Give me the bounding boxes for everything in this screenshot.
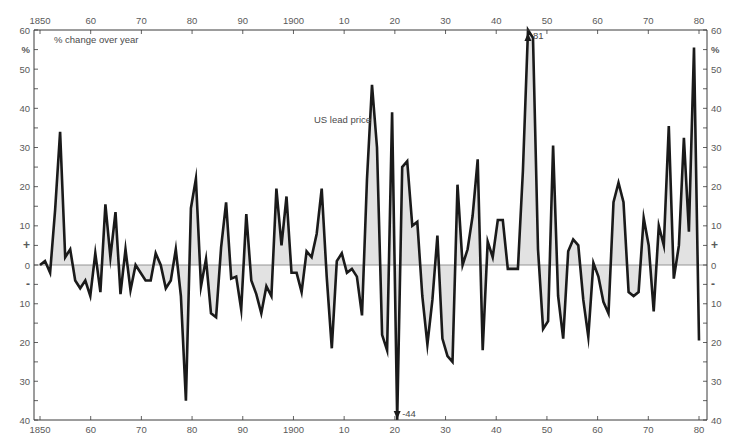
x-tick-label-top: 60	[592, 15, 603, 26]
x-tick-label-top: 50	[542, 15, 553, 26]
x-tick-label-bottom: 1850	[29, 424, 50, 435]
y-tick-label-right: 0	[711, 260, 716, 271]
y-tick-label-right: 30	[711, 376, 722, 387]
x-tick-label-bottom: 70	[643, 424, 654, 435]
x-tick-label-bottom: 90	[237, 424, 248, 435]
y-tick-label-left: 40	[19, 415, 30, 426]
y-tick-label-left: -	[26, 277, 30, 291]
x-tick-label-top: 1900	[283, 15, 304, 26]
y-tick-label-left: 30	[19, 376, 30, 387]
y-tick-label-left: 40	[19, 103, 30, 114]
x-tick-label-top: 70	[136, 15, 147, 26]
y-tick-label-right: 10	[711, 298, 722, 309]
y-tick-label-left: +	[23, 238, 30, 252]
series-label: US lead price	[314, 114, 371, 125]
trough-annotation: -44	[402, 408, 416, 419]
x-tick-label-top: 80	[187, 15, 198, 26]
x-tick-label-bottom: 40	[491, 424, 502, 435]
y-tick-label-right: 50	[711, 64, 722, 75]
x-tick-label-bottom: 30	[440, 424, 451, 435]
y-tick-label-left: 60	[19, 25, 30, 36]
peak-annotation: 81	[533, 30, 544, 41]
x-tick-label-top: 40	[491, 15, 502, 26]
y-tick-label-right: 40	[711, 415, 722, 426]
y-tick-label-right: -	[711, 277, 715, 291]
x-tick-label-bottom: 1900	[283, 424, 304, 435]
x-tick-label-bottom: 60	[85, 424, 96, 435]
x-tick-label-top: 60	[85, 15, 96, 26]
y-tick-label-right: 60	[711, 25, 722, 36]
x-tick-label-bottom: 70	[136, 424, 147, 435]
y-tick-label-left: 20	[19, 337, 30, 348]
y-tick-label-right: 20	[711, 337, 722, 348]
y-tick-label-right: 30	[711, 142, 722, 153]
y-tick-label-left: 0	[25, 260, 30, 271]
y-tick-label-left: 20	[19, 181, 30, 192]
chart-canvas: 6060%%50504040303020201010++00--10102020…	[0, 0, 734, 446]
y-axis-label: % change over year	[54, 34, 139, 45]
x-tick-label-bottom: 10	[339, 424, 350, 435]
y-tick-label-right: 10	[711, 220, 722, 231]
y-tick-label-left: %	[22, 44, 31, 55]
y-tick-label-left: 10	[19, 220, 30, 231]
x-tick-label-top: 30	[440, 15, 451, 26]
y-tick-label-left: 10	[19, 298, 30, 309]
x-tick-label-bottom: 50	[542, 424, 553, 435]
y-tick-label-left: 50	[19, 64, 30, 75]
x-tick-label-bottom: 80	[187, 424, 198, 435]
x-tick-label-top: 10	[339, 15, 350, 26]
x-tick-label-top: 1850	[29, 15, 50, 26]
x-tick-label-top: 20	[390, 15, 401, 26]
y-tick-label-right: +	[711, 238, 718, 252]
y-tick-label-right: %	[711, 44, 720, 55]
area-fill	[40, 30, 699, 420]
y-tick-label-right: 20	[711, 181, 722, 192]
area-fill-path	[40, 30, 699, 420]
y-tick-label-right: 40	[711, 103, 722, 114]
x-tick-label-top: 70	[643, 15, 654, 26]
x-tick-label-bottom: 20	[390, 424, 401, 435]
x-tick-label-bottom: 80	[694, 424, 705, 435]
x-tick-label-top: 90	[237, 15, 248, 26]
chart: 6060%%50504040303020201010++00--10102020…	[0, 0, 734, 446]
x-tick-label-bottom: 60	[592, 424, 603, 435]
y-tick-label-left: 30	[19, 142, 30, 153]
x-tick-label-top: 80	[694, 15, 705, 26]
